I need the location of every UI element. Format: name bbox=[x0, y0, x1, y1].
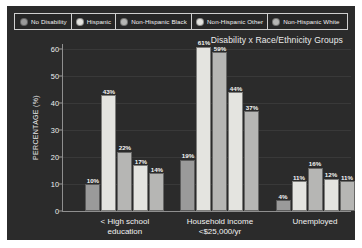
bar[interactable] bbox=[212, 52, 227, 211]
bar-item[interactable]: 37% bbox=[244, 44, 259, 211]
legend-item-label: No Disability bbox=[31, 18, 67, 25]
bar-item[interactable]: 14% bbox=[149, 44, 164, 211]
y-axis-tick-label: 50 bbox=[51, 72, 59, 81]
y-axis-tick-label: 60 bbox=[51, 45, 59, 54]
legend-item-label: Non-Hispanic White bbox=[283, 18, 339, 25]
bar[interactable] bbox=[276, 200, 291, 211]
bar[interactable] bbox=[228, 92, 243, 211]
bar[interactable] bbox=[85, 184, 100, 211]
y-axis-tick-mark bbox=[59, 76, 62, 77]
y-axis-title: PERCENTAGE (%) bbox=[30, 44, 41, 211]
bar[interactable] bbox=[196, 47, 211, 211]
y-axis-tick-mark bbox=[59, 103, 62, 104]
bar-value-label: 10% bbox=[87, 177, 99, 184]
bar[interactable] bbox=[117, 152, 132, 211]
bar-value-label: 61% bbox=[198, 39, 210, 46]
bar-value-label: 44% bbox=[230, 85, 242, 92]
bar-value-label: 12% bbox=[325, 171, 337, 178]
legend-swatch-icon bbox=[120, 18, 128, 26]
bar[interactable] bbox=[101, 95, 116, 211]
bar-item[interactable]: 19% bbox=[180, 44, 195, 211]
y-axis-tick-mark bbox=[59, 184, 62, 185]
bar-item[interactable]: 11% bbox=[340, 44, 355, 211]
chart-legend: No DisabilityHispanicNon-Hispanic BlackN… bbox=[14, 13, 348, 30]
bar-item[interactable]: 43% bbox=[101, 44, 116, 211]
bar[interactable] bbox=[308, 168, 323, 211]
bar-item[interactable]: 16% bbox=[308, 44, 323, 211]
legend-item-label: Non-Hispanic Other bbox=[207, 18, 263, 25]
legend-separator bbox=[115, 14, 116, 29]
legend-item-label: Non-Hispanic Black bbox=[131, 18, 187, 25]
bar[interactable] bbox=[180, 160, 195, 211]
y-axis-tick-label: 20 bbox=[51, 153, 59, 162]
legend-item-no-disability[interactable]: No Disability bbox=[18, 18, 69, 26]
bar-value-label: 19% bbox=[182, 152, 194, 159]
legend-item-non-hispanic-other[interactable]: Non-Hispanic Other bbox=[194, 18, 265, 26]
legend-separator bbox=[71, 14, 72, 29]
y-axis-tick-label: 40 bbox=[51, 99, 59, 108]
y-axis-tick-mark bbox=[59, 211, 62, 212]
bar-value-label: 11% bbox=[341, 174, 353, 181]
plot-area: 010203040506010%43%22%17%14%< High schoo… bbox=[63, 44, 351, 211]
bar-item[interactable]: 61% bbox=[196, 44, 211, 211]
x-axis-tick-label: Household income <$25,000/yr bbox=[180, 217, 260, 237]
bar-item[interactable]: 17% bbox=[133, 44, 148, 211]
bar-value-label: 16% bbox=[309, 160, 321, 167]
y-axis-tick-label: 10 bbox=[51, 180, 59, 189]
y-axis-title-label: PERCENTAGE (%) bbox=[32, 95, 39, 160]
bar[interactable] bbox=[149, 173, 164, 211]
chart-panel: No DisabilityHispanicNon-Hispanic BlackN… bbox=[7, 6, 355, 240]
bar-item[interactable]: 44% bbox=[228, 44, 243, 211]
bar-group: 10%43%22%17%14%< High school education bbox=[85, 44, 165, 211]
bar-value-label: 14% bbox=[151, 166, 163, 173]
y-axis-tick-mark bbox=[59, 130, 62, 131]
y-axis-line bbox=[62, 44, 63, 211]
y-axis-tick-mark bbox=[59, 157, 62, 158]
bar-value-label: 4% bbox=[279, 193, 288, 200]
bar[interactable] bbox=[244, 111, 259, 211]
legend-swatch-icon bbox=[272, 18, 280, 26]
bar-item[interactable]: 12% bbox=[324, 44, 339, 211]
bar[interactable] bbox=[340, 181, 355, 211]
legend-item-non-hispanic-white[interactable]: Non-Hispanic White bbox=[270, 18, 341, 26]
y-axis-tick-label: 30 bbox=[51, 126, 59, 135]
bar[interactable] bbox=[324, 179, 339, 211]
bar-value-label: 17% bbox=[135, 158, 147, 165]
bar-group: 4%11%16%12%11%Unemployed bbox=[275, 44, 355, 211]
legend-separator bbox=[191, 14, 192, 29]
legend-item-hispanic[interactable]: Hispanic bbox=[74, 18, 114, 26]
bar-value-label: 11% bbox=[293, 174, 305, 181]
x-axis-tick-label: Unemployed bbox=[275, 217, 355, 227]
y-axis-tick-mark bbox=[59, 49, 62, 50]
legend-item-non-hispanic-black[interactable]: Non-Hispanic Black bbox=[118, 18, 189, 26]
legend-item-label: Hispanic bbox=[87, 18, 112, 25]
legend-swatch-icon bbox=[76, 18, 84, 26]
chart-figure: No DisabilityHispanicNon-Hispanic BlackN… bbox=[0, 0, 362, 248]
bar-item[interactable]: 59% bbox=[212, 44, 227, 211]
bar-value-label: 22% bbox=[119, 144, 131, 151]
x-axis-tick-label: < High school education bbox=[85, 217, 165, 237]
bar-value-label: 59% bbox=[214, 45, 226, 52]
bar-item[interactable]: 10% bbox=[85, 44, 100, 211]
legend-swatch-icon bbox=[20, 18, 28, 26]
bar-group: 19%61%59%44%37%Household income <$25,000… bbox=[180, 44, 260, 211]
bar[interactable] bbox=[133, 165, 148, 211]
bar-item[interactable]: 11% bbox=[292, 44, 307, 211]
bar[interactable] bbox=[292, 181, 307, 211]
legend-swatch-icon bbox=[196, 18, 204, 26]
bar-item[interactable]: 4% bbox=[276, 44, 291, 211]
x-axis-line bbox=[62, 211, 351, 212]
bar-value-label: 43% bbox=[103, 88, 115, 95]
bar-item[interactable]: 22% bbox=[117, 44, 132, 211]
legend-separator bbox=[267, 14, 268, 29]
bar-value-label: 37% bbox=[246, 104, 258, 111]
